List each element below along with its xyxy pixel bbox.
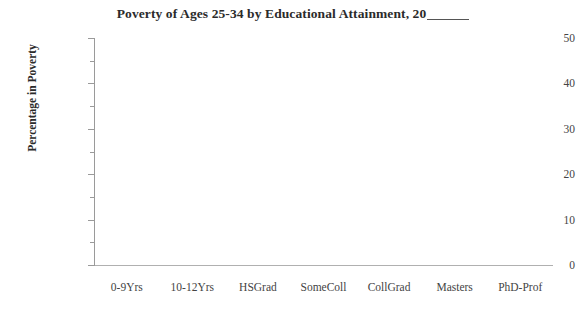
plot-area xyxy=(94,38,553,265)
y-axis-major-tick xyxy=(88,129,95,130)
y-axis-tick-label: 0 xyxy=(512,259,586,271)
y-axis-minor-tick xyxy=(90,152,95,153)
poverty-education-chart: Poverty of Ages 25-34 by Educational Att… xyxy=(0,0,586,313)
x-axis-category-label: 10-12Yrs xyxy=(171,281,214,293)
x-axis-category-label: SomeColl xyxy=(300,281,346,293)
chart-title-text: Poverty of Ages 25-34 by Educational Att… xyxy=(117,6,427,21)
y-axis-minor-tick xyxy=(90,242,95,243)
y-axis-tick-label: 30 xyxy=(512,123,586,135)
chart-title-blank-underline xyxy=(427,19,469,20)
x-axis-category-label: Masters xyxy=(436,281,472,293)
y-axis-tick-label: 40 xyxy=(512,77,586,89)
x-axis-category-label: CollGrad xyxy=(368,281,411,293)
y-axis-tick-label: 10 xyxy=(512,214,586,226)
y-axis-tick-label: 50 xyxy=(512,32,586,44)
x-axis-category-label: PhD-Prof xyxy=(498,281,542,293)
y-axis-major-tick xyxy=(88,174,95,175)
y-axis-minor-tick xyxy=(90,61,95,62)
y-axis-minor-tick xyxy=(90,197,95,198)
x-axis-category-label: 0-9Yrs xyxy=(111,281,143,293)
x-axis-category-label: HSGrad xyxy=(239,281,277,293)
y-axis-major-tick xyxy=(88,83,95,84)
y-axis-title: Percentage in Poverty xyxy=(26,18,38,178)
y-axis-tick-label: 20 xyxy=(512,168,586,180)
y-axis-major-tick xyxy=(88,265,95,266)
y-axis-major-tick xyxy=(88,38,95,39)
y-axis-major-tick xyxy=(88,220,95,221)
x-axis-line xyxy=(94,265,553,266)
y-axis-minor-tick xyxy=(90,106,95,107)
chart-title: Poverty of Ages 25-34 by Educational Att… xyxy=(0,6,586,22)
